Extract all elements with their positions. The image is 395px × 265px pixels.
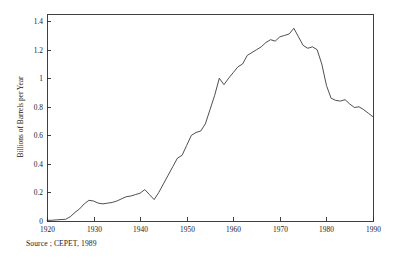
y-tick-label: 0.4 [34, 160, 44, 169]
y-tick-label: 1.4 [34, 17, 44, 26]
y-axis-tick-labels: 00.20.40.60.811.21.4 [34, 17, 44, 226]
y-tick-label: 0.8 [34, 103, 44, 112]
y-tick-label: 1.2 [34, 46, 44, 55]
x-tick-label: 1940 [133, 225, 148, 234]
y-tick-label: 0.2 [34, 188, 44, 197]
x-tick-label: 1980 [319, 225, 334, 234]
plot-frame [47, 14, 373, 221]
x-tick-label: 1970 [273, 225, 288, 234]
x-tick-label: 1930 [87, 225, 102, 234]
oil-production-line-chart: 19201930194019501960197019801990 00.20.4… [0, 0, 395, 265]
y-axis-title: Billions of Barrels per Year [16, 76, 25, 158]
x-tick-label: 1960 [226, 225, 241, 234]
source-note: Source ; CEPET, 1989 [26, 239, 97, 248]
x-axis-tick-labels: 19201930194019501960197019801990 [40, 225, 381, 234]
y-tick-label: 1 [39, 74, 43, 83]
x-tick-label: 1950 [180, 225, 195, 234]
figure-container: 19201930194019501960197019801990 00.20.4… [0, 0, 395, 265]
y-tick-label: 0.6 [34, 131, 44, 140]
y-tick-label: 0 [39, 217, 43, 226]
x-tick-label: 1990 [366, 225, 381, 234]
